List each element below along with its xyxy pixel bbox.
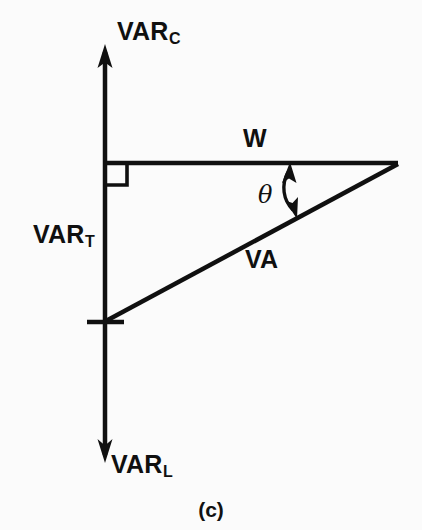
label-var-t-base: VAR xyxy=(33,220,85,248)
label-var-l-base: VAR xyxy=(111,450,163,478)
figure-caption: (c) xyxy=(0,498,422,522)
label-w: W xyxy=(243,126,267,151)
label-var-c-subscript: C xyxy=(169,30,181,47)
label-var-c: VARC xyxy=(117,19,180,44)
label-var-c-base: VAR xyxy=(117,17,169,45)
figure-container: VARC VART VARL W VA θ (c) xyxy=(0,0,422,530)
label-theta: θ xyxy=(258,183,273,207)
label-var-l-subscript: L xyxy=(163,463,173,480)
label-var-t: VART xyxy=(33,222,95,247)
label-var-t-subscript: T xyxy=(85,233,95,250)
right-angle-marker-icon xyxy=(105,163,127,185)
label-var-l: VARL xyxy=(111,452,173,477)
vector-diagram-svg xyxy=(0,0,422,530)
label-va: VA xyxy=(245,247,278,272)
va-vector-line xyxy=(104,164,398,322)
